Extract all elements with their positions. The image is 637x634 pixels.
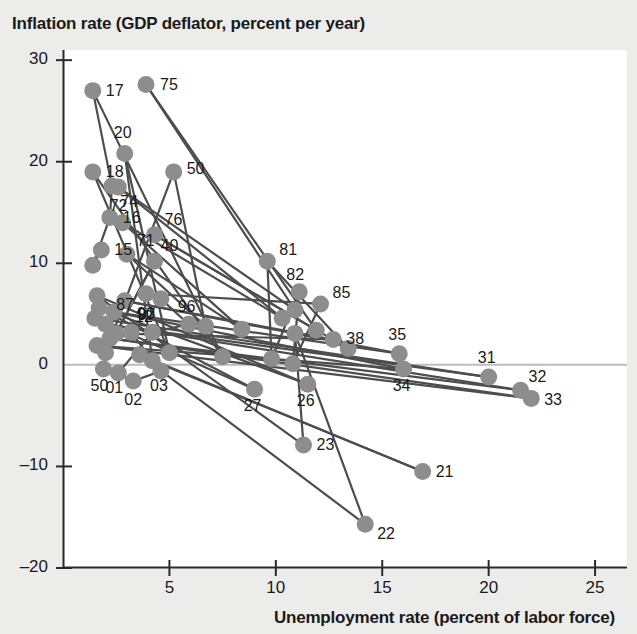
y-tick-label: –20 bbox=[2, 557, 48, 577]
data-point bbox=[523, 390, 540, 407]
point-label-34: 34 bbox=[393, 377, 411, 394]
point-label-31: 31 bbox=[478, 349, 496, 366]
data-point bbox=[312, 295, 329, 312]
point-label-22: 22 bbox=[377, 525, 395, 542]
point-label-26: 26 bbox=[297, 392, 315, 409]
data-point bbox=[263, 350, 280, 367]
data-point bbox=[308, 322, 325, 339]
point-label-03: 03 bbox=[150, 377, 168, 394]
point-label-20: 20 bbox=[114, 124, 132, 141]
point-label-32: 32 bbox=[529, 368, 547, 385]
point-label-02: 02 bbox=[124, 391, 142, 408]
data-point bbox=[131, 346, 148, 363]
point-label-33: 33 bbox=[544, 391, 562, 408]
data-point bbox=[180, 316, 197, 333]
point-label-75: 75 bbox=[160, 76, 178, 93]
series-segment bbox=[146, 85, 316, 331]
data-point bbox=[325, 331, 342, 348]
x-tick-label: 5 bbox=[149, 578, 189, 598]
data-point bbox=[165, 163, 182, 180]
point-label-71: 71 bbox=[137, 232, 155, 249]
plot-area: 1516171820212223262731323334353840505071… bbox=[63, 50, 627, 568]
y-tick-label: 0 bbox=[2, 354, 48, 374]
data-point bbox=[93, 242, 110, 259]
point-label-81: 81 bbox=[279, 241, 297, 258]
point-label-18: 18 bbox=[106, 163, 124, 180]
data-point bbox=[138, 76, 155, 93]
scatter-svg: 1516171820212223262731323334353840505071… bbox=[63, 50, 627, 568]
x-tick-label: 25 bbox=[575, 578, 615, 598]
data-point bbox=[125, 373, 142, 390]
x-tick-label: 10 bbox=[256, 578, 296, 598]
data-point bbox=[357, 516, 374, 533]
data-point bbox=[214, 348, 231, 365]
point-label-12: 12 bbox=[135, 308, 153, 325]
data-point bbox=[84, 163, 101, 180]
point-label-50: 50 bbox=[187, 160, 205, 177]
point-label-38: 38 bbox=[346, 330, 364, 347]
x-axis-title: Unemployment rate (percent of labor forc… bbox=[0, 608, 629, 628]
data-point bbox=[395, 360, 412, 377]
data-point bbox=[291, 283, 308, 300]
point-label-35: 35 bbox=[388, 326, 406, 343]
y-tick-label: 10 bbox=[2, 252, 48, 272]
point-label-85: 85 bbox=[333, 284, 351, 301]
x-tick-label: 15 bbox=[362, 578, 402, 598]
point-label-23: 23 bbox=[316, 436, 334, 453]
data-point bbox=[246, 381, 263, 398]
data-point bbox=[391, 345, 408, 362]
point-label-17: 17 bbox=[106, 82, 124, 99]
data-point bbox=[84, 257, 101, 274]
point-label-27: 27 bbox=[244, 397, 262, 414]
point-label-96: 96 bbox=[178, 298, 196, 315]
data-point bbox=[286, 302, 303, 319]
point-label-74: 74 bbox=[120, 193, 138, 210]
point-label-87: 87 bbox=[116, 296, 134, 313]
point-label-21: 21 bbox=[436, 463, 454, 480]
data-point bbox=[197, 318, 214, 335]
data-point bbox=[116, 145, 133, 162]
data-point bbox=[286, 325, 303, 342]
point-label-76: 76 bbox=[165, 211, 183, 228]
data-point bbox=[97, 344, 114, 361]
x-tick-label: 20 bbox=[469, 578, 509, 598]
data-point bbox=[259, 253, 276, 270]
point-label-01: 01 bbox=[105, 379, 123, 396]
y-tick-label: 20 bbox=[2, 151, 48, 171]
y-tick-label: 30 bbox=[2, 49, 48, 69]
point-label-15: 15 bbox=[114, 241, 132, 258]
point-label-82: 82 bbox=[286, 266, 304, 283]
data-point bbox=[295, 437, 312, 454]
data-point bbox=[299, 376, 316, 393]
data-point bbox=[123, 324, 140, 341]
point-label-40: 40 bbox=[161, 237, 179, 254]
phillips-curve-chart: Inflation rate (GDP deflator, percent pe… bbox=[0, 0, 637, 634]
data-point bbox=[480, 369, 497, 386]
y-axis-title: Inflation rate (GDP deflator, percent pe… bbox=[12, 14, 365, 34]
data-point bbox=[108, 325, 125, 342]
data-point bbox=[144, 324, 161, 341]
data-point bbox=[284, 355, 301, 372]
y-tick-label: –10 bbox=[2, 455, 48, 475]
data-point bbox=[138, 285, 155, 302]
data-point bbox=[414, 463, 431, 480]
data-point bbox=[84, 82, 101, 99]
data-point bbox=[233, 321, 250, 338]
data-point bbox=[152, 290, 169, 307]
data-point bbox=[146, 253, 163, 270]
data-point bbox=[161, 344, 178, 361]
data-point bbox=[95, 360, 112, 377]
